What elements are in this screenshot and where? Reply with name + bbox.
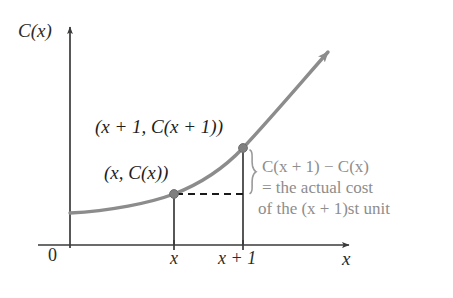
origin-label: 0 [48, 246, 57, 264]
point-label-upper: (x + 1, C(x + 1)) [95, 117, 223, 136]
x-axis-label: x [342, 249, 350, 268]
y-axis-label: C(x) [18, 21, 52, 40]
point-x-cx [170, 190, 179, 199]
point-x-plus-1-cx-plus-1 [239, 144, 248, 153]
tick-label-x: x [170, 249, 178, 267]
point-label-lower: (x, C(x)) [104, 163, 168, 182]
annotation-line-actual-cost: = the actual cost [262, 179, 373, 196]
tick-label-x-plus-1: x + 1 [218, 249, 256, 267]
annotation-line-unit: of the (x + 1)st unit [258, 200, 390, 217]
annotation-line-difference: C(x + 1) − C(x) [262, 158, 369, 175]
